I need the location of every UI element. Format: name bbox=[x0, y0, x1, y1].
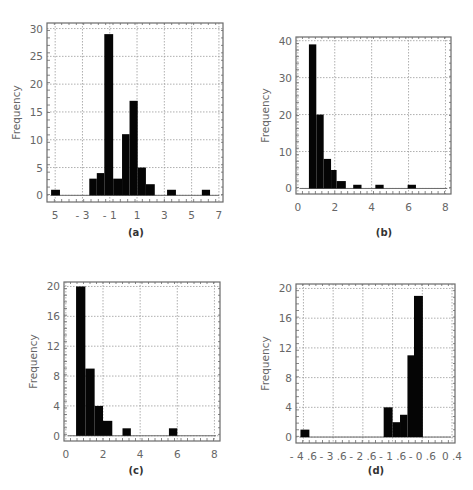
y-tick-label: 8 bbox=[285, 372, 292, 384]
histogram-bar bbox=[300, 430, 309, 437]
histogram-bar bbox=[407, 355, 414, 437]
x-tick-label: 1 bbox=[134, 209, 141, 221]
x-tick-label: - 3 .6 bbox=[320, 450, 347, 462]
y-axis-label: Frequency bbox=[10, 85, 22, 139]
x-tick-label: 4 bbox=[368, 201, 375, 213]
x-tick-label: - 0 .6 bbox=[409, 450, 436, 462]
x-tick-label: 0 bbox=[295, 201, 302, 213]
y-tick-label: 20 bbox=[279, 282, 292, 294]
histogram-bar bbox=[400, 415, 407, 437]
y-tick-label: 16 bbox=[279, 312, 293, 324]
histogram-bar bbox=[103, 421, 112, 436]
histogram-panel-c: 04812162002468Frequency(c) bbox=[27, 280, 220, 476]
panel-caption: (a) bbox=[128, 227, 144, 238]
y-tick-label: 20 bbox=[30, 78, 43, 90]
x-tick-label: 5 bbox=[188, 209, 195, 221]
y-tick-label: 0 bbox=[285, 182, 292, 194]
y-axis-label: Frequency bbox=[259, 336, 271, 390]
histogram-bar bbox=[76, 286, 85, 435]
y-tick-label: 4 bbox=[285, 401, 292, 413]
y-tick-label: 0 bbox=[285, 431, 292, 443]
x-tick-label: - 3 bbox=[76, 209, 90, 221]
histogram-bar bbox=[408, 185, 416, 189]
figure-canvas: 0510152025305- 3- 11357Frequency(a)01020… bbox=[0, 0, 473, 490]
panel-caption: (d) bbox=[368, 465, 384, 476]
y-tick-label: 0 bbox=[36, 189, 43, 201]
x-tick-label: 8 bbox=[211, 448, 218, 460]
plot-frame bbox=[296, 284, 455, 443]
histogram-bar bbox=[331, 170, 337, 188]
histogram-bar bbox=[169, 428, 177, 435]
x-tick-label: 5 bbox=[52, 209, 59, 221]
y-tick-label: 25 bbox=[30, 50, 43, 62]
histogram-panel-b: 01020304002468Frequency(b) bbox=[259, 35, 451, 238]
histogram-bar bbox=[202, 190, 210, 196]
y-axis-label: Frequency bbox=[259, 88, 271, 142]
y-tick-label: 12 bbox=[279, 342, 292, 354]
histogram-bar bbox=[375, 185, 383, 189]
y-tick-label: 8 bbox=[53, 370, 60, 382]
y-tick-label: 10 bbox=[30, 134, 43, 146]
histogram-bar bbox=[138, 168, 146, 196]
x-tick-label: 3 bbox=[161, 209, 168, 221]
histogram-bar bbox=[353, 185, 361, 189]
histogram-bar bbox=[414, 296, 423, 437]
y-tick-label: 40 bbox=[279, 35, 292, 47]
histogram-panel-a: 0510152025305- 3- 11357Frequency(a) bbox=[10, 23, 223, 238]
x-tick-label: 6 bbox=[405, 201, 412, 213]
y-tick-label: 20 bbox=[279, 109, 292, 121]
y-axis-label: Frequency bbox=[27, 334, 39, 388]
y-tick-label: 16 bbox=[47, 310, 61, 322]
histogram-bar bbox=[384, 407, 393, 437]
histogram-bar bbox=[146, 184, 155, 195]
histogram-bar bbox=[316, 115, 323, 189]
histogram-bar bbox=[122, 134, 130, 195]
histogram-panel-d: 048121620- 4 .6- 3 .6- 2 .6- 1 .6- 0 .60… bbox=[259, 282, 462, 476]
histogram-bar bbox=[89, 179, 97, 196]
histogram-bar bbox=[309, 44, 316, 188]
histogram-bar bbox=[113, 179, 122, 196]
histogram-bar bbox=[97, 173, 105, 195]
y-tick-label: 0 bbox=[53, 430, 60, 442]
panel-caption: (c) bbox=[128, 465, 143, 476]
histogram-bar bbox=[337, 181, 346, 188]
y-tick-label: 30 bbox=[279, 72, 292, 84]
histogram-bar bbox=[51, 190, 60, 196]
y-tick-label: 5 bbox=[36, 162, 43, 174]
x-tick-label: 6 bbox=[174, 448, 181, 460]
histogram-bar bbox=[393, 422, 400, 437]
y-tick-label: 20 bbox=[47, 280, 60, 292]
x-tick-label: - 4 .6 bbox=[290, 450, 317, 462]
x-tick-label: 7 bbox=[216, 209, 223, 221]
y-tick-label: 10 bbox=[279, 146, 292, 158]
x-tick-label: 0 bbox=[63, 448, 70, 460]
y-tick-label: 4 bbox=[53, 400, 60, 412]
x-tick-label: 2 bbox=[100, 448, 107, 460]
histogram-bar bbox=[104, 34, 113, 195]
y-tick-label: 30 bbox=[30, 23, 43, 35]
x-tick-label: 0 .4 bbox=[442, 450, 462, 462]
x-tick-label: - 1 .6 bbox=[379, 450, 406, 462]
histogram-bar bbox=[167, 190, 176, 196]
y-tick-label: 15 bbox=[30, 106, 43, 118]
histogram-bar bbox=[324, 159, 331, 189]
histogram-bar bbox=[95, 406, 103, 436]
x-tick-label: - 2 .6 bbox=[349, 450, 376, 462]
histogram-bar bbox=[123, 428, 131, 435]
x-tick-label: - 1 bbox=[103, 209, 117, 221]
panel-caption: (b) bbox=[376, 227, 392, 238]
y-tick-label: 12 bbox=[47, 340, 60, 352]
x-tick-label: 2 bbox=[331, 201, 338, 213]
histogram-bar bbox=[85, 369, 94, 436]
x-tick-label: 8 bbox=[442, 201, 449, 213]
x-tick-label: 4 bbox=[137, 448, 144, 460]
histogram-bar bbox=[130, 101, 138, 196]
